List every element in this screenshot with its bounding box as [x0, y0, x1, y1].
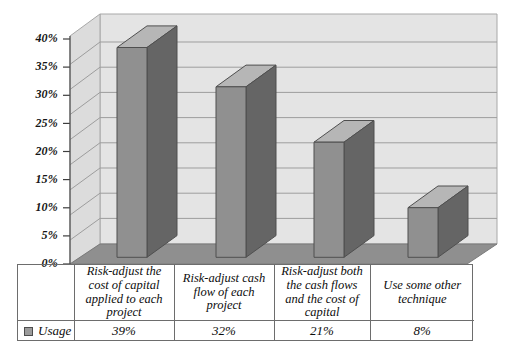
bar-2-front — [216, 87, 246, 257]
plot-left-wall — [70, 14, 100, 264]
bar-2-side — [246, 65, 276, 257]
bar-1-side — [147, 26, 177, 257]
data-table: Risk-adjust the cost of capital applied … — [17, 264, 473, 341]
legend-label: Usage — [38, 323, 71, 338]
y-tick-label-15: 15% — [12, 172, 58, 187]
category-header-4: Use some other technique — [370, 265, 474, 321]
y-tick-label-20: 20% — [12, 144, 58, 159]
category-header-1: Risk-adjust the cost of capital applied … — [74, 265, 174, 321]
table-corner-cell — [18, 265, 74, 321]
bar-4-front — [408, 208, 438, 258]
bar-2 — [216, 65, 276, 257]
value-cell-3: 21% — [274, 321, 370, 341]
category-header-3: Risk-adjust both the cash flows and the … — [274, 265, 370, 321]
table-row-categories: Risk-adjust the cost of capital applied … — [18, 265, 474, 321]
y-tick-label-25: 25% — [12, 116, 58, 131]
data-table-grid: Risk-adjust the cost of capital applied … — [18, 265, 474, 340]
y-axis-ticks — [63, 39, 70, 264]
bar-1-front — [117, 48, 147, 258]
y-tick-label-5: 5% — [12, 228, 58, 243]
table-row-usage: Usage 39% 32% 21% 8% — [18, 321, 474, 341]
legend-swatch-icon — [24, 327, 33, 336]
value-cell-4: 8% — [370, 321, 474, 341]
value-cell-1: 39% — [74, 321, 174, 341]
bar-3-front — [314, 142, 344, 257]
value-cell-2: 32% — [174, 321, 274, 341]
legend-usage: Usage — [18, 321, 74, 341]
bar-1 — [117, 26, 177, 257]
y-tick-label-30: 30% — [12, 87, 58, 102]
bar-3-side — [344, 121, 374, 258]
category-header-2: Risk-adjust cash flow of each project — [174, 265, 274, 321]
bar-3 — [314, 121, 374, 258]
y-tick-label-10: 10% — [12, 200, 58, 215]
chart-figure: 40% 35% 30% 25% 20% 15% 10% 5% 0% Risk-a… — [0, 0, 514, 359]
y-tick-label-40: 40% — [12, 31, 58, 46]
y-tick-label-35: 35% — [12, 59, 58, 74]
